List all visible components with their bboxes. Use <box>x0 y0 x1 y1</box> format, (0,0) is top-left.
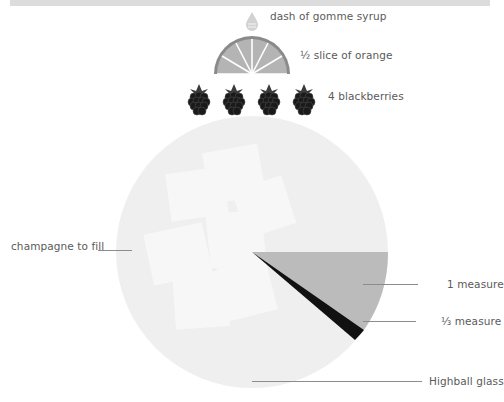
leader-line-glass <box>252 381 422 382</box>
orange-slice-icon <box>214 36 290 74</box>
blackberry-icon <box>223 84 245 115</box>
label-orange-slice: ½ slice of orange <box>300 49 393 61</box>
cocktail-diagram <box>0 0 504 402</box>
blackberry-icon <box>293 84 315 115</box>
leader-line-third-measure <box>363 321 416 322</box>
label-champagne: champagne to fill <box>11 240 104 252</box>
label-highball-glass: Highball glass <box>429 375 504 387</box>
label-1-measure: 1 measure <box>447 278 504 290</box>
blackberries-group <box>188 84 315 115</box>
label-gomme-syrup: dash of gomme syrup <box>270 10 387 22</box>
leader-line-1-measure <box>363 284 418 285</box>
label-third-measure: ⅓ measure <box>441 315 501 327</box>
label-blackberries: 4 blackberries <box>328 90 404 102</box>
blackberry-icon <box>258 84 280 115</box>
syrup-drop-icon <box>246 12 258 31</box>
blackberry-icon <box>188 84 210 115</box>
leader-line-champagne <box>98 250 132 251</box>
